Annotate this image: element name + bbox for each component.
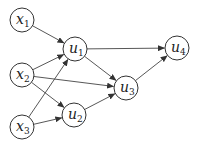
edge-x3-u2 xyxy=(34,118,62,124)
edge-x2-u1 xyxy=(33,55,64,70)
node-x1: x1 xyxy=(10,8,34,32)
node-u3: u3 xyxy=(114,76,138,100)
node-x2: x2 xyxy=(10,63,34,87)
edge-u1-u4 xyxy=(87,48,165,49)
directed-graph-diagram: x1x2x3u1u2u3u4 xyxy=(0,0,198,145)
edge-u1-u3 xyxy=(85,56,117,80)
node-u1: u1 xyxy=(63,37,87,61)
node-x3: x3 xyxy=(10,115,34,139)
edges-layer xyxy=(29,26,167,125)
node-u4: u4 xyxy=(165,36,189,60)
edge-x3-u1 xyxy=(29,59,68,117)
edge-x1-u1 xyxy=(33,26,65,43)
edge-u2-u3 xyxy=(85,94,115,110)
edge-x2-u2 xyxy=(32,82,65,107)
node-u2: u2 xyxy=(62,103,86,127)
edge-u3-u4 xyxy=(135,56,167,81)
edge-x2-u3 xyxy=(34,76,114,86)
